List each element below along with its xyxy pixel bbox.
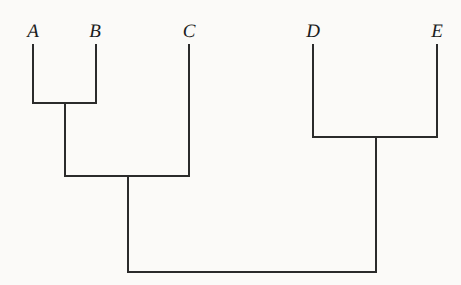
taxon-label-e: E — [431, 22, 443, 41]
taxon-label-a: A — [27, 22, 39, 41]
taxon-label-d: D — [306, 22, 320, 41]
cladogram-drawing — [0, 0, 461, 285]
branch-layer — [33, 45, 437, 272]
taxon-label-c: C — [183, 22, 196, 41]
cladogram-figure: ABCDE — [0, 0, 461, 285]
taxon-label-b: B — [89, 22, 101, 41]
